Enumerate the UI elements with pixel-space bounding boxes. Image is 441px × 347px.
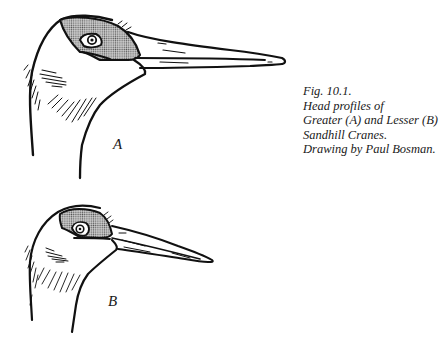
caption-line-4: Sandhill Cranes.: [303, 128, 438, 143]
caption-line-3: Greater (A) and Lesser (B): [303, 113, 438, 128]
cheek-hatching-b: [46, 248, 68, 262]
cheek-hatching-a: [40, 70, 66, 87]
figure-caption: Fig. 10.1. Head profiles of Greater (A) …: [303, 84, 438, 157]
neck-hatching-b: [25, 246, 80, 305]
caption-figure-number: Fig. 10.1.: [303, 84, 438, 99]
figure: A B Fig. 10.1. Head profiles of Greater …: [0, 0, 441, 347]
crane-heads-illustration: [0, 0, 441, 347]
caption-credit: Drawing by Paul Bosman.: [303, 142, 438, 157]
head-a-label: A: [113, 136, 122, 153]
caption-line-2: Head profiles of: [303, 99, 438, 114]
neck-hatching-a: [24, 65, 96, 122]
head-b-label: B: [108, 293, 117, 310]
head-a-drawing: [24, 16, 285, 178]
head-b-drawing: [25, 206, 213, 332]
